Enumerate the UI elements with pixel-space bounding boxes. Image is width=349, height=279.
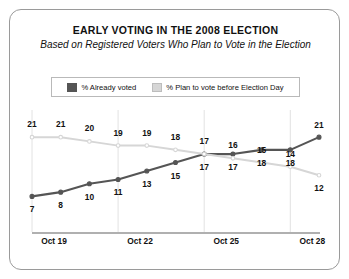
data-label: 14: [286, 149, 295, 159]
data-label: 15: [171, 171, 180, 181]
data-label: 10: [85, 192, 94, 202]
x-tick-label: Oct 28: [299, 236, 325, 246]
data-point: [145, 169, 149, 173]
legend-label-plan-to-vote: % Plan to vote before Election Day: [166, 83, 283, 92]
plot-area: 7810111315171718182121212019191817161514…: [24, 110, 327, 232]
data-point: [231, 157, 235, 161]
x-axis-tick-labels: Oct 19Oct 22Oct 25Oct 28: [24, 236, 327, 252]
data-point: [202, 152, 206, 156]
data-label: 15: [257, 145, 266, 155]
series-line: [32, 137, 319, 175]
data-point: [116, 177, 120, 181]
data-label: 18: [286, 158, 295, 168]
data-point: [145, 144, 149, 148]
x-tick-label: Oct 22: [127, 236, 153, 246]
data-point: [88, 140, 92, 144]
data-point: [30, 194, 34, 198]
data-point: [87, 182, 91, 186]
data-point: [317, 135, 321, 139]
data-point: [59, 135, 63, 139]
chart-legend: % Already voted % Plan to vote before El…: [51, 77, 300, 97]
data-point: [231, 152, 235, 156]
chart-titles: EARLY VOTING IN THE 2008 ELECTION Based …: [10, 24, 341, 50]
data-label: 21: [27, 119, 36, 129]
data-point: [174, 148, 178, 152]
legend-swatch-already-voted: [67, 83, 77, 92]
x-tick-label: Oct 19: [41, 236, 67, 246]
legend-label-already-voted: % Already voted: [81, 83, 136, 92]
data-label: 8: [58, 200, 63, 210]
data-label: 21: [314, 120, 323, 130]
data-label: 21: [56, 119, 65, 129]
data-point: [174, 161, 178, 165]
data-label: 13: [142, 179, 151, 189]
x-axis-line: [32, 232, 320, 234]
data-label: 11: [114, 187, 123, 197]
x-tick-label: Oct 25: [213, 236, 239, 246]
data-point: [30, 135, 34, 139]
series-line: [32, 137, 319, 196]
legend-item-plan-to-vote: % Plan to vote before Election Day: [152, 83, 283, 92]
data-point: [317, 173, 321, 177]
data-label: 19: [113, 128, 122, 138]
legend-swatch-plan-to-vote: [152, 83, 162, 92]
legend-item-already-voted: % Already voted: [67, 83, 136, 92]
chart-subtitle: Based on Registered Voters Who Plan to V…: [10, 39, 341, 50]
data-point: [116, 144, 120, 148]
chart-card: EARLY VOTING IN THE 2008 ELECTION Based …: [9, 9, 340, 270]
data-label: 20: [85, 123, 94, 133]
data-label: 17: [228, 162, 237, 172]
data-label: 7: [30, 204, 35, 214]
data-label: 16: [228, 140, 237, 150]
data-label: 18: [171, 132, 180, 142]
data-label: 18: [257, 158, 266, 168]
data-label: 19: [142, 128, 151, 138]
data-label: 17: [200, 136, 209, 146]
chart-title: EARLY VOTING IN THE 2008 ELECTION: [10, 24, 341, 36]
data-point: [59, 190, 63, 194]
data-label: 12: [314, 183, 323, 193]
data-label: 17: [200, 162, 209, 172]
